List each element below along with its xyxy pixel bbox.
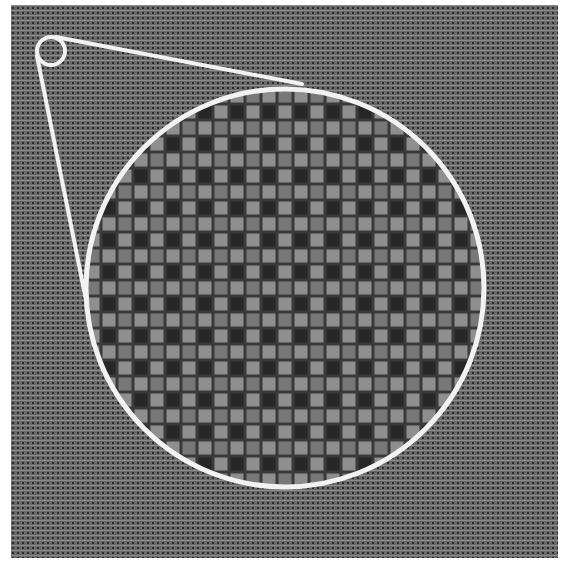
figure-canvas (0, 0, 564, 561)
magnification-figure (0, 0, 564, 561)
